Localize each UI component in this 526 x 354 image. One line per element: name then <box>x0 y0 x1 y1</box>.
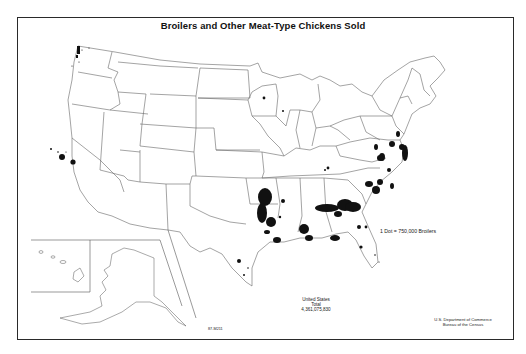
inset-borders <box>31 230 196 318</box>
map-title: Broilers and Other Meat-Type Chickens So… <box>0 20 526 31</box>
us-total: United States Total 4,361,075,830 <box>286 297 346 313</box>
credit-line2: Bureau of the Census <box>423 323 503 328</box>
map-code: 87-M211 <box>208 327 223 331</box>
source-credit: U.S. Department of Commerce Bureau of th… <box>423 318 503 328</box>
total-value: 4,361,075,830 <box>286 307 346 312</box>
broiler-dots <box>50 46 408 276</box>
hawaii-outline <box>39 251 84 282</box>
dot-legend: 1 Dot = 750,000 Broilers <box>380 228 436 234</box>
us-map <box>0 0 526 354</box>
state-outlines <box>68 46 445 286</box>
alaska-outline <box>60 248 186 326</box>
